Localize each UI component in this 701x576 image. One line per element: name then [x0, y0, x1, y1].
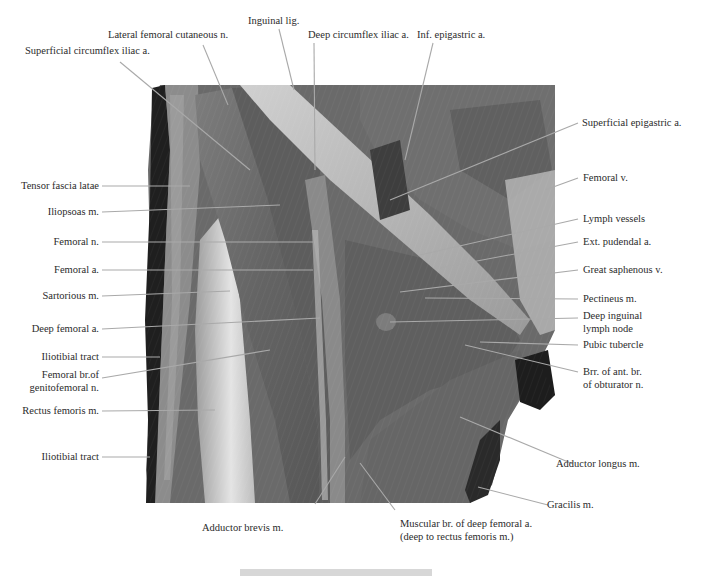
anatomy-figure [0, 0, 701, 576]
label-inguinal-lig: Inguinal lig. [248, 15, 299, 28]
label-ext-pudendal-a: Ext. pudendal a. [583, 236, 651, 249]
label-pectineus-m: Pectineus m. [583, 293, 637, 306]
label-adductor-longus-m: Adductor longus m. [556, 458, 640, 471]
label-iliotibial-tract-upper: Iliotibial tract [42, 351, 99, 364]
label-line-1: Brr. of ant. br. [583, 366, 643, 379]
label-femoral-n: Femoral n. [54, 236, 100, 249]
label-deep-inguinal-lymph-node: Deep inguinal lymph node [583, 310, 642, 335]
label-muscular-br-deep-femoral-a: Muscular br. of deep femoral a. (deep to… [400, 518, 532, 543]
label-deep-circumflex-iliac-a: Deep circumflex iliac a. [308, 29, 409, 42]
label-iliotibial-tract-lower: Iliotibial tract [42, 451, 99, 464]
label-deep-femoral-a: Deep femoral a. [32, 323, 99, 336]
label-line-2: (deep to rectus femoris m.) [400, 531, 532, 544]
label-line-1: Muscular br. of deep femoral a. [400, 518, 532, 531]
label-sartorious-m: Sartorious m. [42, 290, 99, 303]
dissection-photo [145, 85, 555, 503]
label-inf-epigastric-a: Inf. epigastric a. [417, 29, 485, 42]
label-lymph-vessels: Lymph vessels [583, 213, 645, 226]
label-femoral-a: Femoral a. [54, 264, 99, 277]
label-femoral-v: Femoral v. [583, 172, 628, 185]
label-adductor-brevis-m: Adductor brevis m. [202, 522, 283, 535]
label-line-1: Deep inguinal [583, 310, 642, 323]
label-gracilis-m: Gracilis m. [547, 499, 594, 512]
label-line-2: genitofemoral n. [30, 382, 99, 395]
label-line-1: Femoral br.of [30, 369, 99, 382]
label-tensor-fascia-latae: Tensor fascia latae [21, 180, 99, 193]
footer-bar [240, 569, 432, 576]
label-lateral-femoral-cutaneous-n: Lateral femoral cutaneous n. [108, 29, 228, 42]
label-line-2: lymph node [583, 323, 642, 336]
label-pubic-tubercle: Pubic tubercle [583, 339, 643, 352]
label-femoral-br-genitofemoral-n: Femoral br.of genitofemoral n. [30, 369, 99, 394]
label-superficial-epigastric-a: Superficial epigastric a. [582, 117, 681, 130]
label-great-saphenous-v: Great saphenous v. [583, 264, 663, 277]
label-superficial-circumflex-iliac-a: Superficial circumflex iliac a. [25, 45, 150, 58]
label-brr-of-ant-br-obturator-n: Brr. of ant. br. of obturator n. [583, 366, 643, 391]
label-iliopsoas-m: Iliopsoas m. [48, 206, 99, 219]
label-rectus-femoris-m: Rectus femoris m. [22, 405, 99, 418]
label-line-2: of obturator n. [583, 379, 643, 392]
